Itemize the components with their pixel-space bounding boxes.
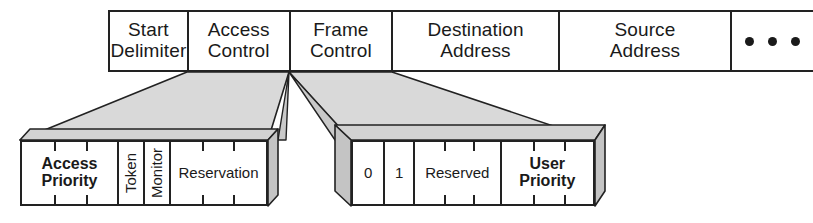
- ellipsis-dot-icon: [745, 37, 754, 46]
- field-label-line2: Delimiter: [110, 41, 186, 62]
- bit-tick: [533, 142, 535, 151]
- field-label-line2: Address: [427, 41, 523, 62]
- frame-field-source-address[interactable]: Source Address: [560, 12, 733, 70]
- frame-control-detail-box: 0 1 Reserved User Priority: [351, 140, 595, 206]
- subfield-bit-one[interactable]: 1: [385, 142, 415, 204]
- bit-tick: [233, 195, 235, 204]
- bit-tick: [54, 195, 56, 204]
- bit-tick: [233, 142, 235, 151]
- diagram-canvas: Start Delimiter Access Control Frame Con…: [0, 0, 813, 223]
- bit-tick: [54, 142, 56, 151]
- token-ring-frame-row: Start Delimiter Access Control Frame Con…: [108, 10, 813, 72]
- field-label-line2: Address: [610, 41, 680, 62]
- subfield-token[interactable]: Token: [119, 142, 145, 204]
- bit-tick: [202, 142, 204, 151]
- field-label-line2: Control: [310, 41, 372, 62]
- subfield-label: 0: [364, 165, 372, 181]
- subfield-label: Token: [123, 153, 139, 193]
- bit-tick: [86, 142, 88, 151]
- subfield-label-line2: Priority: [519, 173, 575, 190]
- subfield-reservation[interactable]: Reservation: [171, 142, 266, 204]
- subfield-user-priority[interactable]: User Priority: [502, 142, 593, 204]
- subfield-label-line1: Access: [41, 156, 97, 173]
- bit-tick: [473, 195, 475, 204]
- ellipsis-dot-icon: [768, 37, 777, 46]
- bit-tick: [564, 195, 566, 204]
- subfield-label: Reserved: [425, 165, 489, 181]
- subfield-reserved[interactable]: Reserved: [415, 142, 502, 204]
- subfield-label: 1: [395, 165, 403, 181]
- frame-field-access-control[interactable]: Access Control: [189, 12, 291, 70]
- subfield-label-line1: User: [519, 156, 575, 173]
- subfield-label: Reservation: [178, 165, 258, 181]
- bit-tick: [444, 142, 446, 151]
- bit-tick: [444, 195, 446, 204]
- subfield-label: Monitor: [149, 148, 165, 198]
- field-label-line1: Start: [110, 20, 186, 41]
- ellipsis-dot-icon: [791, 37, 800, 46]
- subfield-monitor[interactable]: Monitor: [145, 142, 171, 204]
- bit-tick: [86, 195, 88, 204]
- field-label-line1: Access: [208, 20, 270, 41]
- access-control-funnel: [20, 72, 289, 140]
- field-label-line2: Control: [208, 41, 270, 62]
- frame-field-continuation: [732, 12, 813, 70]
- frame-field-frame-control[interactable]: Frame Control: [291, 12, 394, 70]
- subfield-label-line2: Priority: [41, 173, 97, 190]
- field-label-line1: Frame: [310, 20, 372, 41]
- bit-tick: [202, 195, 204, 204]
- subfield-access-priority[interactable]: Access Priority: [22, 142, 119, 204]
- bit-tick: [473, 142, 475, 151]
- subfield-bit-zero[interactable]: 0: [353, 142, 385, 204]
- bit-tick: [533, 195, 535, 204]
- bit-tick: [564, 142, 566, 151]
- frame-field-start-delimiter[interactable]: Start Delimiter: [110, 12, 189, 70]
- frame-field-destination-address[interactable]: Destination Address: [393, 12, 560, 70]
- field-label-line1: Source: [610, 20, 680, 41]
- access-control-detail-box: Access Priority Token Monitor Reservatio…: [20, 140, 268, 206]
- field-label-line1: Destination: [427, 20, 523, 41]
